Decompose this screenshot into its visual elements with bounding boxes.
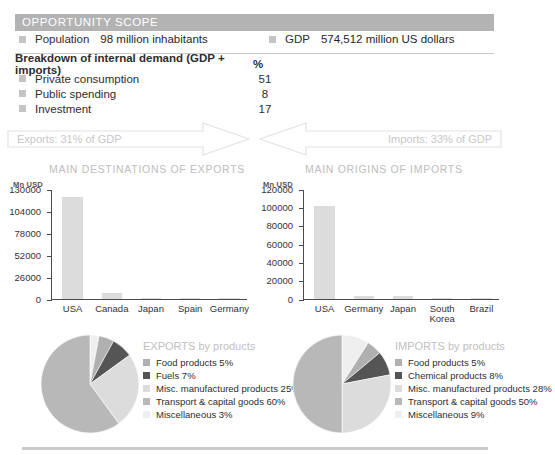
legend-swatch-icon [143, 359, 150, 366]
exports-pie-graphic [40, 334, 140, 434]
breakdown-row-value: 8 [253, 88, 277, 100]
x-axis-tick-label: Japan [131, 304, 170, 314]
imports-pie-graphic [292, 334, 392, 434]
exports-pie-chart: EXPORTS by products Food products 5% Fue… [40, 334, 140, 434]
legend-item: Transport & capital goods 60% [143, 395, 303, 408]
legend-item: Misc. manufactured products 25% [143, 382, 303, 395]
y-axis-tick-label: 26000 [15, 272, 41, 283]
pie-slice [293, 335, 342, 433]
legend-swatch-icon [395, 372, 402, 379]
y-axis-tick-label: 104000 [9, 206, 41, 217]
x-axis-line [303, 299, 499, 300]
imports-bar-chart: 020000400006000080000100000120000USAGerm… [256, 190, 506, 320]
x-axis-tick-label: South Korea [423, 304, 462, 324]
legend-swatch-icon [143, 372, 150, 379]
y-axis-tick: 120000 [299, 190, 304, 191]
legend-swatch-icon [395, 398, 402, 405]
x-axis-line [51, 299, 247, 300]
legend-label: Miscellaneous 9% [408, 409, 485, 420]
bullet-square-icon [19, 90, 26, 97]
fact-population-label: Population [35, 33, 89, 45]
breakdown-row: Investment 17 [15, 101, 494, 116]
legend-swatch-icon [143, 411, 150, 418]
legend-item: Chemical products 8% [395, 369, 555, 382]
legend-swatch-icon [395, 359, 402, 366]
breakdown-row-value: 51 [253, 73, 277, 85]
y-axis-tick-label: 0 [36, 294, 41, 305]
bullet-square-icon [19, 36, 26, 43]
exports-pie-legend-title: EXPORTS by products [143, 340, 303, 352]
x-axis-tick-label: USA [53, 304, 92, 314]
breakdown-unit: % [246, 58, 270, 70]
legend-label: Fuels 7% [156, 370, 196, 381]
y-axis-tick: 26000 [47, 278, 52, 279]
imports-pie-chart: IMPORTS by products Food products 5% Che… [292, 334, 392, 434]
exports-plot-area: 0260005200078000104000130000USACanadaJap… [51, 190, 247, 300]
fact-gdp: GDP 574,512 million US dollars [269, 33, 455, 45]
bar [141, 298, 161, 299]
breakdown-header-row: Breakdown of internal demand (GDP + impo… [15, 56, 494, 71]
y-axis-tick: 0 [299, 300, 304, 301]
y-axis-tick-label: 78000 [15, 228, 41, 239]
bar [62, 197, 82, 299]
breakdown-row-label: Investment [35, 103, 253, 115]
exports-chart-title: MAIN DESTINATIONS OF EXPORTS [49, 163, 245, 175]
y-axis-tick: 40000 [299, 263, 304, 264]
bar [314, 206, 334, 299]
x-axis-tick-label: Germany [344, 304, 383, 314]
bar [102, 293, 122, 299]
fact-gdp-label: GDP [285, 33, 310, 45]
x-axis-tick-label: Germany [210, 304, 249, 314]
legend-item: Transport & capital goods 50% [395, 395, 555, 408]
exports-arrow-banner: Exports: 31% of GDP [7, 122, 250, 156]
exports-pie-legend: EXPORTS by products Food products 5% Fue… [143, 340, 303, 421]
x-axis-tick-label: Canada [92, 304, 131, 314]
imports-arrow-banner: Imports: 33% of GDP [259, 122, 502, 156]
bullet-square-icon [269, 36, 276, 43]
fact-gdp-value: 574,512 million US dollars [321, 33, 455, 45]
y-axis-tick: 0 [47, 300, 52, 301]
x-axis-tick-label: Brazil [462, 304, 501, 314]
legend-label: Food products 5% [408, 357, 485, 368]
legend-item: Miscellaneous 3% [143, 408, 303, 421]
imports-plot-area: 020000400006000080000100000120000USAGerm… [303, 190, 499, 300]
y-axis-tick-label: 80000 [267, 220, 293, 231]
y-axis-tick-label: 60000 [267, 239, 293, 250]
y-axis-tick: 80000 [299, 226, 304, 227]
bar [180, 298, 200, 299]
legend-label: Transport & capital goods 60% [156, 396, 286, 407]
x-axis-tick-label: USA [305, 304, 344, 314]
y-axis-tick-label: 20000 [267, 275, 293, 286]
imports-share-label: Imports: 33% of GDP [388, 133, 492, 145]
legend-item: Fuels 7% [143, 369, 303, 382]
legend-label: Misc. manufactured products 28% [408, 383, 552, 394]
bullet-square-icon [19, 105, 26, 112]
y-axis-tick: 20000 [299, 281, 304, 282]
y-axis-tick-label: 52000 [15, 250, 41, 261]
pie-slice [342, 375, 391, 433]
bullet-square-icon [19, 75, 26, 82]
y-axis-tick-label: 130000 [9, 184, 41, 195]
bar [393, 296, 413, 299]
fact-population-value: 98 million inhabitants [100, 33, 207, 45]
legend-swatch-icon [395, 385, 402, 392]
breakdown-row: Private consumption 51 [15, 71, 494, 86]
breakdown-row-value: 17 [253, 103, 277, 115]
y-axis-line [51, 190, 52, 300]
legend-swatch-icon [143, 385, 150, 392]
internal-demand-breakdown: Breakdown of internal demand (GDP + impo… [15, 56, 494, 116]
y-axis-tick-label: 0 [288, 294, 293, 305]
legend-label: Miscellaneous 3% [156, 409, 233, 420]
exports-share-label: Exports: 31% of GDP [17, 133, 122, 145]
x-axis-tick-label: Japan [383, 304, 422, 314]
legend-item: Misc. manufactured products 28% [395, 382, 555, 395]
imports-pie-legend: IMPORTS by products Food products 5% Che… [395, 340, 555, 421]
legend-label: Transport & capital goods 50% [408, 396, 538, 407]
imports-pie-legend-title: IMPORTS by products [395, 340, 555, 352]
y-axis-tick: 104000 [47, 212, 52, 213]
legend-item: Food products 5% [143, 356, 303, 369]
bar [219, 298, 239, 299]
y-axis-tick-label: 120000 [261, 184, 293, 195]
bar [471, 298, 491, 299]
bar [354, 296, 374, 299]
